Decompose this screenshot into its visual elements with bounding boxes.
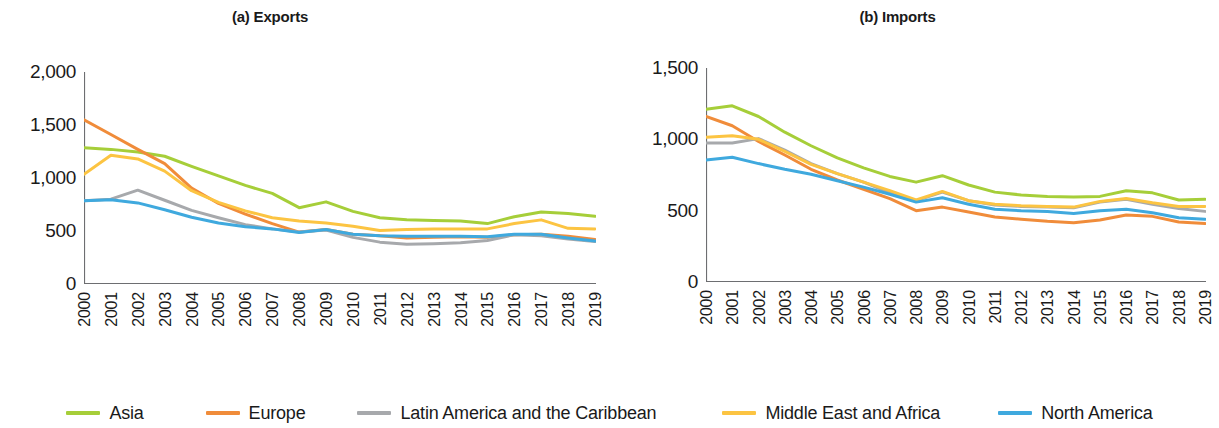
x-axis-tick-label: 2019 <box>587 292 605 327</box>
x-axis-tick-label: 2002 <box>751 290 769 325</box>
x-axis-tick-label: 2014 <box>453 292 471 327</box>
x-axis-tick-label: 2018 <box>560 292 578 327</box>
x-axis-tick-label: 2010 <box>961 290 979 325</box>
x-axis-tick-label: 2003 <box>777 290 795 325</box>
legend-item-north-america[interactable]: North America <box>998 403 1152 424</box>
x-axis-tick-label: 2001 <box>724 290 742 325</box>
x-axis-tick-label: 2011 <box>987 290 1005 324</box>
y-axis-labels-imports: 05001,0001,500 <box>632 68 698 282</box>
x-axis-tick-label: 2008 <box>908 290 926 325</box>
y-axis-tick-label: 0 <box>66 273 76 295</box>
legend-swatch-asia <box>66 411 100 415</box>
x-axis-tick-label: 2018 <box>1171 290 1189 325</box>
x-axis-tick-label: 2001 <box>103 292 121 327</box>
x-axis-tick-label: 2016 <box>1118 290 1136 325</box>
legend-label: Europe <box>249 403 306 424</box>
x-axis-tick-label: 2019 <box>1197 290 1215 325</box>
x-axis-tick-label: 2000 <box>76 292 94 327</box>
plot-area-exports <box>84 72 596 284</box>
chart-panel-imports: (b) Imports 05001,0001,500 2000200120022… <box>620 0 1219 390</box>
x-axis-tick-label: 2007 <box>264 292 282 327</box>
series-line-middle-east-and-africa <box>84 155 595 230</box>
series-line-asia <box>84 148 595 224</box>
x-axis-tick-label: 2017 <box>1144 290 1162 325</box>
legend-item-asia[interactable]: Asia <box>66 403 143 424</box>
x-axis-tick-label: 2004 <box>184 292 202 327</box>
y-axis-tick-label: 1,000 <box>652 128 698 150</box>
x-axis-tick-label: 2006 <box>856 290 874 325</box>
x-axis-tick-label: 2010 <box>345 292 363 327</box>
panel-title-imports: (b) Imports <box>598 8 1197 25</box>
legend-label: Middle East and Africa <box>765 403 940 424</box>
series-line-europe <box>706 117 1205 224</box>
x-axis-tick-label: 2012 <box>399 292 417 327</box>
x-axis-tick-label: 2013 <box>426 292 444 327</box>
x-axis-tick-label: 2017 <box>533 292 551 327</box>
x-axis-tick-label: 2002 <box>130 292 148 327</box>
y-axis-tick-label: 2,000 <box>30 61 76 83</box>
x-axis-labels-exports: 2000200120022003200420052006200720082009… <box>84 292 596 352</box>
legend-label: North America <box>1041 403 1152 424</box>
legend-item-europe[interactable]: Europe <box>206 403 306 424</box>
x-axis-tick-label: 2015 <box>479 292 497 327</box>
plot-area-imports <box>706 68 1206 282</box>
x-axis-tick-label: 2015 <box>1092 290 1110 325</box>
x-axis-tick-label: 2009 <box>318 292 336 327</box>
x-axis-tick-label: 2012 <box>1013 290 1031 325</box>
legend-swatch-middle-east-africa <box>722 411 756 415</box>
x-axis-tick-label: 2008 <box>291 292 309 327</box>
y-axis-tick-label: 1,500 <box>652 57 698 79</box>
legend-label: Asia <box>109 403 143 424</box>
y-axis-labels-exports: 05001,0001,5002,000 <box>10 72 76 284</box>
x-axis-tick-label: 2006 <box>237 292 255 327</box>
x-axis-labels-imports: 2000200120022003200420052006200720082009… <box>706 290 1206 350</box>
figure-root: (a) Exports 05001,0001,5002,000 20002001… <box>0 0 1219 428</box>
chart-svg-imports <box>706 68 1206 282</box>
chart-panel-exports: (a) Exports 05001,0001,5002,000 20002001… <box>0 0 620 390</box>
x-axis-tick-label: 2009 <box>934 290 952 325</box>
x-axis-tick-label: 2011 <box>372 292 390 326</box>
x-axis-tick-label: 2007 <box>882 290 900 325</box>
y-axis-tick-label: 500 <box>45 220 76 242</box>
x-axis-tick-label: 2005 <box>829 290 847 325</box>
series-line-middle-east-and-africa <box>706 136 1205 207</box>
panel-title-exports: (a) Exports <box>0 8 580 25</box>
x-axis-tick-label: 2016 <box>506 292 524 327</box>
legend-item-middle-east-and-africa[interactable]: Middle East and Africa <box>722 403 940 424</box>
x-axis-tick-label: 2004 <box>803 290 821 325</box>
chart-legend: AsiaEuropeLatin America and the Caribbea… <box>0 398 1219 428</box>
legend-swatch-latin-america <box>357 411 391 415</box>
y-axis-tick-label: 0 <box>688 271 698 293</box>
y-axis-tick-label: 500 <box>667 200 698 222</box>
y-axis-tick-label: 1,000 <box>30 167 76 189</box>
legend-swatch-north-america <box>998 411 1032 415</box>
legend-label: Latin America and the Caribbean <box>400 403 656 424</box>
y-axis-tick-label: 1,500 <box>30 114 76 136</box>
legend-swatch-europe <box>206 411 240 415</box>
chart-svg-exports <box>84 72 596 284</box>
legend-item-latin-america-and-the-caribbean[interactable]: Latin America and the Caribbean <box>357 403 656 424</box>
x-axis-tick-label: 2013 <box>1039 290 1057 325</box>
x-axis-tick-label: 2000 <box>698 290 716 325</box>
x-axis-tick-label: 2005 <box>210 292 228 327</box>
x-axis-tick-label: 2003 <box>157 292 175 327</box>
x-axis-tick-label: 2014 <box>1066 290 1084 325</box>
